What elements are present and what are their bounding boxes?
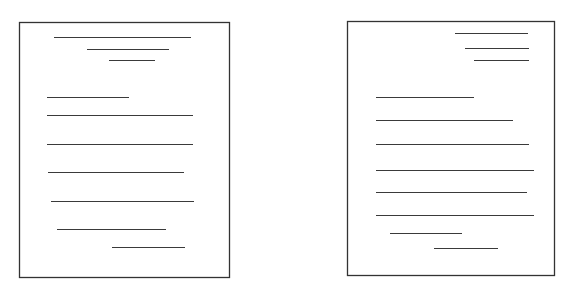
page-right-aligned-heading [348,22,555,276]
document-layout-diagram [0,0,572,289]
page-border [348,22,555,276]
page-centered-heading [20,23,230,278]
